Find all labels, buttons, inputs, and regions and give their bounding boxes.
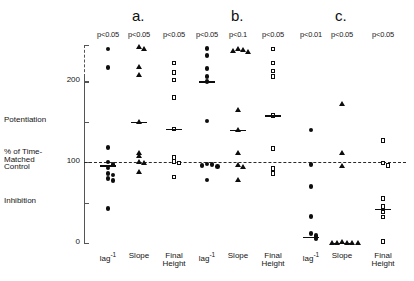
pvalue-label-a-0: p<0.05 <box>91 31 125 39</box>
mean-bar-c-2 <box>375 209 391 210</box>
x-axis-label-line2: Height <box>261 259 284 268</box>
data-point-open-square <box>381 210 385 214</box>
data-point-filled-triangle <box>141 160 147 165</box>
data-point-filled-circle <box>215 164 220 169</box>
mean-bar-b-2 <box>265 115 281 116</box>
data-point-filled-circle <box>205 178 210 183</box>
data-point-open-square <box>381 239 385 243</box>
y-tick-3 <box>84 203 89 204</box>
x-axis-label-line1: Slope <box>332 251 352 260</box>
y-tick-label-2: 100 <box>56 157 80 165</box>
data-point-filled-circle <box>106 206 111 211</box>
x-axis-label-line2: Height <box>371 259 394 268</box>
data-point-filled-triangle <box>136 64 142 69</box>
pvalue-label-b-2: p<0.05 <box>256 31 290 39</box>
data-point-filled-triangle <box>136 169 142 174</box>
x-axis-label-line2: Height <box>162 259 185 268</box>
mean-bar-a-0 <box>100 165 116 166</box>
y-tick-0 <box>84 81 89 82</box>
data-point-open-square <box>271 171 275 175</box>
data-point-filled-circle <box>106 47 111 52</box>
data-point-open-square <box>271 47 275 51</box>
data-point-filled-circle <box>210 162 215 167</box>
y-axis-top-cap <box>84 45 89 46</box>
data-point-filled-circle <box>309 128 314 133</box>
data-point-filled-circle <box>106 145 111 150</box>
data-point-filled-triangle <box>339 150 345 155</box>
data-point-filled-triangle <box>136 153 142 158</box>
data-point-filled-circle <box>309 214 314 219</box>
data-point-open-square <box>172 61 176 65</box>
figure-root: 2001000Potentiation% of Time-MatchedCont… <box>0 0 414 281</box>
data-point-filled-triangle <box>136 72 142 77</box>
y-tick-label-0: 200 <box>56 76 80 84</box>
mean-bar-b-1 <box>230 130 246 131</box>
mean-bar-a-1 <box>131 122 147 123</box>
panel-letter-b: b. <box>231 8 244 24</box>
y-tick-label-4: 0 <box>56 238 80 246</box>
data-point-filled-circle <box>111 178 116 183</box>
data-point-filled-circle <box>205 119 210 124</box>
data-point-open-square <box>271 69 275 73</box>
data-point-filled-circle <box>200 163 205 168</box>
data-point-filled-circle <box>106 176 111 181</box>
x-axis-label-line1: lag <box>199 254 210 263</box>
data-point-open-square <box>381 196 385 200</box>
x-axis-label-8: FinalHeight <box>361 252 405 269</box>
panel-letter-a: a. <box>132 8 145 24</box>
data-point-open-square <box>177 161 181 165</box>
x-axis-label-superscript: -1 <box>209 251 215 258</box>
data-point-filled-triangle <box>339 101 345 106</box>
data-point-filled-circle <box>106 160 111 165</box>
y-tick-4 <box>84 243 89 244</box>
data-point-open-square <box>271 146 275 150</box>
data-point-filled-triangle <box>230 48 236 53</box>
data-point-filled-circle <box>309 231 314 236</box>
data-point-filled-circle <box>106 65 111 70</box>
mean-bar-c-1 <box>334 243 350 244</box>
data-point-open-square <box>172 70 176 74</box>
data-point-filled-circle <box>309 162 314 167</box>
data-point-open-square <box>381 161 385 165</box>
data-point-open-square <box>271 61 275 65</box>
x-axis-label-line1: Slope <box>228 251 248 260</box>
data-point-filled-triangle <box>235 177 241 182</box>
pvalue-label-b-0: p<0.05 <box>190 31 224 39</box>
data-point-filled-triangle <box>235 107 241 112</box>
data-point-filled-circle <box>205 66 210 71</box>
x-axis-label-superscript: -1 <box>313 251 319 258</box>
x-axis-label-line1: lag <box>100 254 111 263</box>
panel-letter-c: c. <box>335 8 347 24</box>
pvalue-label-a-2: p<0.05 <box>157 31 191 39</box>
data-point-open-square <box>172 175 176 179</box>
data-point-filled-triangle <box>235 150 241 155</box>
mean-bar-b-0 <box>199 81 215 82</box>
data-point-open-square <box>381 215 385 219</box>
data-point-filled-circle <box>205 162 210 167</box>
data-point-open-square <box>271 166 275 170</box>
data-point-filled-triangle <box>141 46 147 51</box>
y-side-label-3: Control <box>4 162 30 172</box>
y-side-label-4: Inhibition <box>4 196 36 206</box>
y-axis-dashed-extension <box>84 45 85 77</box>
x-axis-label-superscript: -1 <box>110 251 116 258</box>
data-point-open-square <box>172 159 176 163</box>
pvalue-label-c-2: p<0.05 <box>366 31 400 39</box>
data-point-filled-circle <box>309 184 314 189</box>
y-axis-line <box>84 77 85 243</box>
data-point-filled-triangle <box>240 164 246 169</box>
x-axis-label-line1: lag <box>303 254 314 263</box>
pvalue-label-a-1: p<0.05 <box>122 31 156 39</box>
data-point-open-square <box>271 74 275 78</box>
data-point-open-square <box>172 95 176 99</box>
y-side-label-0: Potentiation <box>4 115 46 125</box>
data-point-open-square <box>381 138 385 142</box>
mean-bar-a-2 <box>166 129 182 130</box>
data-point-open-square <box>172 78 176 82</box>
data-point-filled-circle <box>111 173 116 178</box>
mean-bar-c-0 <box>303 237 319 238</box>
pvalue-label-c-0: p<0.01 <box>294 31 328 39</box>
data-point-filled-triangle <box>355 240 361 245</box>
data-point-open-square <box>386 163 390 167</box>
data-point-filled-circle <box>205 46 210 51</box>
